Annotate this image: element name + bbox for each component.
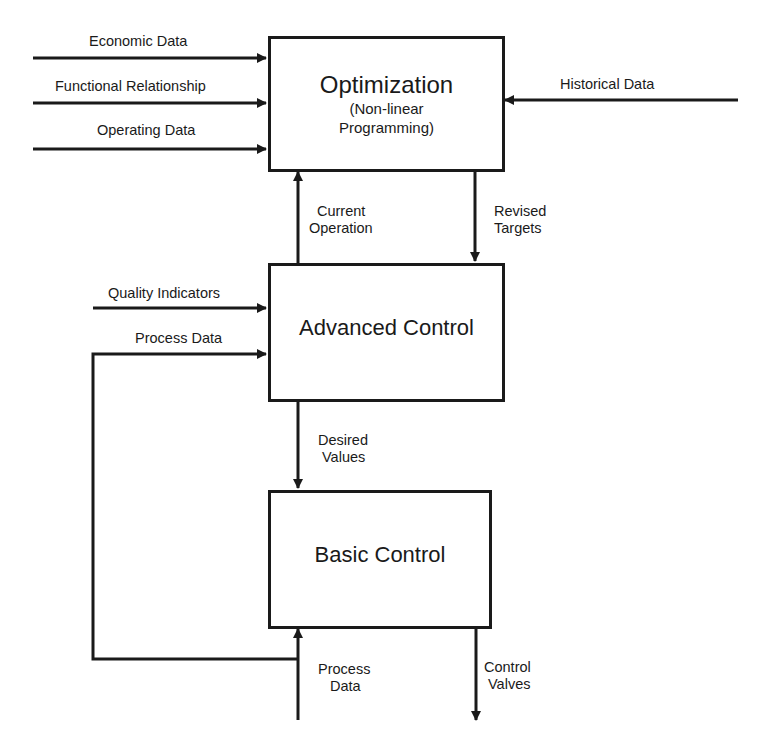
process-data-input-line2: Data xyxy=(318,678,370,695)
current-operation-line1: Current xyxy=(309,203,373,220)
economic-data-label: Economic Data xyxy=(89,33,187,50)
control-valves-label: Control Valves xyxy=(484,659,531,693)
historical-data-label: Historical Data xyxy=(560,76,654,93)
desired-values-line2: Values xyxy=(318,449,368,466)
current-operation-label: Current Operation xyxy=(309,203,373,237)
desired-values-line1: Desired xyxy=(318,432,368,449)
quality-indicators-label: Quality Indicators xyxy=(108,285,220,302)
desired-values-label: Desired Values xyxy=(318,432,368,466)
advanced-control-block: Advanced Control xyxy=(268,263,505,402)
control-valves-line1: Control xyxy=(484,659,531,676)
optimization-block: Optimization (Non-linear Programming) xyxy=(268,36,505,172)
revised-targets-label: Revised Targets xyxy=(494,203,546,237)
basic-control-title: Basic Control xyxy=(315,542,446,568)
optimization-subtitle-line1: (Non-linear xyxy=(349,99,423,118)
revised-targets-line2: Targets xyxy=(494,220,546,237)
process-data-feedback-label: Process Data xyxy=(135,330,222,347)
process-data-input-line1: Process xyxy=(318,661,370,678)
advanced-control-title: Advanced Control xyxy=(299,315,474,341)
current-operation-line2: Operation xyxy=(309,220,373,237)
optimization-title: Optimization xyxy=(320,71,453,99)
operating-data-label: Operating Data xyxy=(97,122,195,139)
revised-targets-line1: Revised xyxy=(494,203,546,220)
basic-control-block: Basic Control xyxy=(268,490,492,629)
functional-relationship-label: Functional Relationship xyxy=(55,78,206,95)
process-data-input-label: Process Data xyxy=(318,661,370,695)
optimization-subtitle-line2: Programming) xyxy=(339,118,434,137)
control-valves-line2: Valves xyxy=(484,676,531,693)
